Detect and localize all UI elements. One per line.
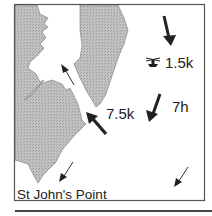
tidal-slack-icon — [146, 58, 160, 67]
stream-rate-channel: 7.5k — [106, 106, 134, 121]
arrow-offshore-south-icon — [146, 94, 160, 122]
arrow-southeast-icon — [174, 167, 188, 187]
land-east — [74, 5, 128, 107]
divider — [15, 210, 212, 212]
arrow-point-icon — [59, 162, 73, 182]
arrow-channel-entrance-icon — [86, 112, 106, 134]
land-west — [15, 5, 86, 183]
arrow-inlet-icon — [61, 64, 74, 85]
tide-hour-label: 7h — [172, 99, 189, 114]
place-label: St John's Point — [17, 188, 107, 202]
stream-rate-offshore: 1.5k — [165, 55, 193, 70]
arrow-offshore-north-icon — [163, 16, 176, 46]
